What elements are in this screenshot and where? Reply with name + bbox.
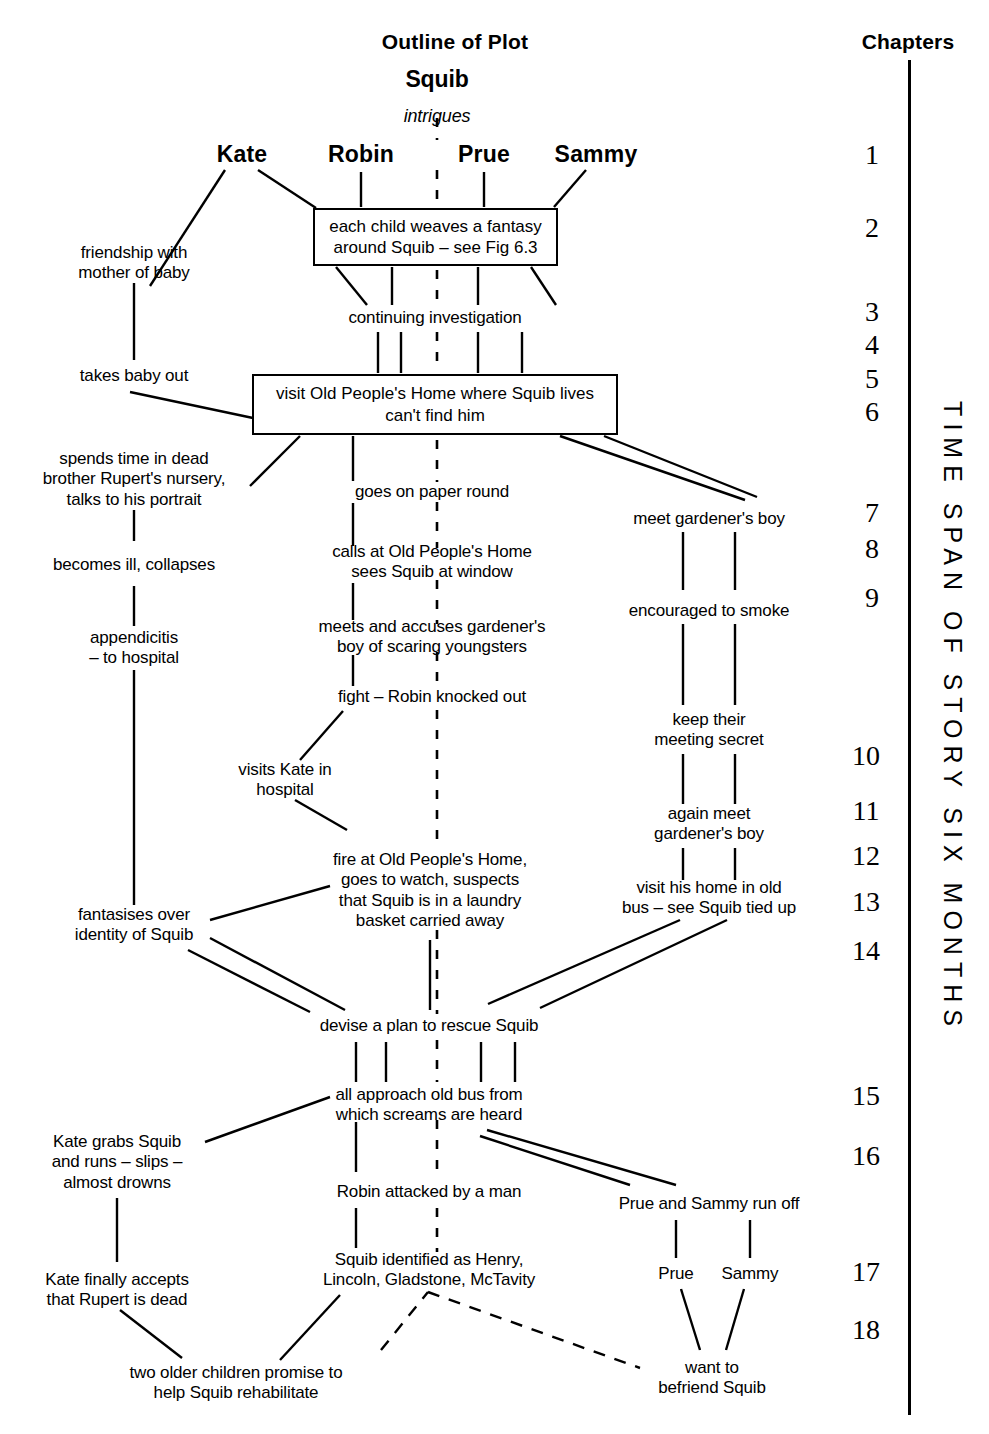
- box-visit-old-peoples-home: visit Old People's Home where Squib live…: [252, 374, 618, 435]
- chapter-number: 17: [852, 1256, 880, 1288]
- chapter-number: 8: [865, 533, 879, 565]
- node-all-approach-old-bus: all approach old bus from which screams …: [335, 1085, 522, 1126]
- node-calls-at-old-peoples-home: calls at Old People's Home sees Squib at…: [332, 542, 532, 583]
- chapter-number: 11: [853, 795, 880, 827]
- node-squib-identified: Squib identified as Henry, Lincoln, Glad…: [323, 1250, 535, 1291]
- chapter-number: 5: [865, 363, 879, 395]
- chapter-number: 12: [852, 840, 880, 872]
- timespan-label: TIME SPAN OF STORY SIX MONTHS: [938, 401, 967, 1033]
- chapter-number: 16: [852, 1140, 880, 1172]
- node-visits-kate-in-hospital: visits Kate in hospital: [238, 760, 331, 801]
- node-meet-gardeners-boy: meet gardener's boy: [633, 509, 785, 529]
- chapter-number: 13: [852, 886, 880, 918]
- node-goes-on-paper-round: goes on paper round: [355, 482, 509, 502]
- node-fantasises-over-identity: fantasises over identity of Squib: [75, 905, 193, 946]
- chapter-number: 9: [865, 582, 879, 614]
- chapter-number: 2: [865, 212, 879, 244]
- node-prue: Prue: [658, 1264, 693, 1284]
- timespan-axis-line: [908, 60, 911, 1415]
- chapter-number: 10: [852, 740, 880, 772]
- node-sammy: Sammy: [722, 1264, 779, 1284]
- node-devise-a-plan: devise a plan to rescue Squib: [320, 1016, 539, 1036]
- node-friendship-with-mother: friendship with mother of baby: [78, 243, 189, 284]
- chapter-number: 15: [852, 1080, 880, 1112]
- chapters-heading: Chapters: [862, 29, 955, 54]
- page-title: Outline of Plot: [382, 29, 528, 54]
- character-robin: Robin: [328, 141, 394, 169]
- node-prue-and-sammy-run-off: Prue and Sammy run off: [619, 1194, 800, 1214]
- node-becomes-ill: becomes ill, collapses: [53, 555, 215, 575]
- chapter-number: 3: [865, 296, 879, 328]
- node-visit-his-home-in-old-bus: visit his home in old bus – see Squib ti…: [622, 878, 796, 919]
- chapter-number: 14: [852, 935, 880, 967]
- chapter-number: 7: [865, 497, 879, 529]
- central-character-label: Squib: [405, 66, 468, 94]
- character-prue: Prue: [458, 141, 510, 169]
- character-sammy: Sammy: [555, 141, 638, 169]
- node-again-meet-gardeners-boy: again meet gardener's boy: [654, 804, 764, 845]
- chapter-number: 6: [865, 396, 879, 428]
- node-spends-time-in-nursery: spends time in dead brother Rupert's nur…: [43, 449, 225, 510]
- node-appendicitis: appendicitis – to hospital: [89, 628, 179, 669]
- chapter-number: 1: [865, 139, 879, 171]
- node-want-to-befriend-squib: want to befriend Squib: [658, 1358, 766, 1399]
- character-kate: Kate: [217, 141, 268, 169]
- node-two-older-children-promise: two older children promise to help Squib…: [130, 1363, 343, 1404]
- node-kate-finally-accepts: Kate finally accepts that Rupert is dead: [45, 1270, 188, 1311]
- node-meets-and-accuses: meets and accuses gardener's boy of scar…: [319, 617, 546, 658]
- intrigues-label: intrigues: [404, 106, 471, 128]
- node-fire-at-old-peoples-home: fire at Old People's Home, goes to watch…: [333, 850, 527, 932]
- chapter-number: 4: [865, 329, 879, 361]
- node-continuing-investigation: continuing investigation: [348, 308, 521, 328]
- chapter-number: 18: [852, 1314, 880, 1346]
- node-robin-attacked: Robin attacked by a man: [337, 1182, 522, 1202]
- node-encouraged-to-smoke: encouraged to smoke: [629, 601, 790, 621]
- plot-outline-figure: Outline of Plot Chapters Squib intrigues…: [0, 0, 989, 1434]
- node-keep-meeting-secret: keep their meeting secret: [654, 710, 763, 751]
- node-takes-baby-out: takes baby out: [80, 366, 188, 386]
- box-each-child-weaves-fantasy: each child weaves a fantasy around Squib…: [313, 208, 558, 266]
- node-fight-robin-knocked-out: fight – Robin knocked out: [338, 687, 526, 707]
- node-kate-grabs-squib: Kate grabs Squib and runs – slips – almo…: [52, 1132, 183, 1193]
